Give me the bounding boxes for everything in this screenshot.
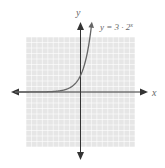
x-axis-label: x	[151, 87, 157, 98]
x-axis-right-arrow-icon	[140, 89, 148, 96]
y-axis-label: y	[75, 7, 81, 18]
y-axis-down-arrow-icon	[77, 152, 84, 160]
equation-text: y = 3 · 2	[99, 22, 131, 32]
curve-arrow-icon	[88, 22, 94, 28]
exponential-graph: x y y = 3 · 2x	[0, 0, 165, 168]
equation-exponent: x	[129, 22, 133, 28]
equation-label: y = 3 · 2x	[99, 22, 133, 32]
y-axis-up-arrow-icon	[77, 22, 84, 30]
